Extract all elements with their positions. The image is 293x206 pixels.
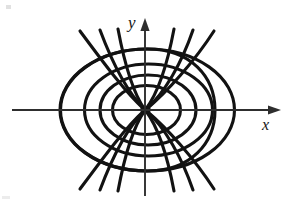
x-axis-label: x bbox=[262, 117, 269, 133]
y-axis-label: y bbox=[128, 14, 136, 31]
math-figure: y x bbox=[0, 0, 293, 206]
orthogonal-families-plot bbox=[0, 0, 293, 206]
scan-speck-top-left bbox=[6, 5, 11, 9]
scan-speck-bottom-left bbox=[2, 196, 10, 199]
